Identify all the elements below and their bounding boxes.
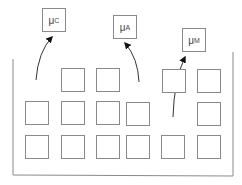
arrow-to-mu-c [36,37,52,80]
subscript: A [126,24,131,31]
label-mu-c: μC [42,8,66,32]
label-mu-a: μA [113,15,137,39]
arrow-to-mu-a [125,43,139,82]
cell-box [197,102,221,126]
cell-box [61,101,85,125]
subscript: C [54,17,59,24]
cell-box [126,135,150,159]
cell-box [61,68,85,92]
cell-box [162,69,186,93]
cell-box [61,135,85,159]
cell-box [161,135,185,159]
cell-box [197,69,221,93]
cell-box [96,101,120,125]
cell-box [25,101,49,125]
cell-box [126,102,150,126]
label-mu-m: μM [182,28,206,52]
cell-box [197,135,221,159]
cell-box [96,135,120,159]
cell-box [96,68,120,92]
cell-box [25,135,49,159]
subscript: M [194,37,200,44]
